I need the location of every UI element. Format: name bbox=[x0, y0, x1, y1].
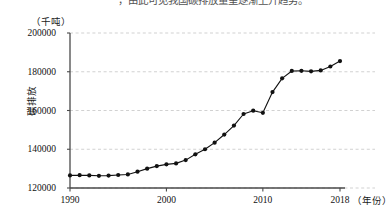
data-point-marker bbox=[299, 69, 303, 73]
data-point-marker bbox=[203, 147, 207, 151]
data-point-marker bbox=[213, 141, 217, 145]
data-point-marker bbox=[106, 174, 110, 178]
y-tick-label: 120000 bbox=[8, 183, 56, 193]
y-tick-label: 160000 bbox=[8, 106, 56, 116]
data-point-marker bbox=[328, 64, 332, 68]
x-tick-label: 2018 bbox=[320, 195, 360, 206]
y-tick-label-wrap: 200000 bbox=[8, 28, 56, 38]
data-point-marker bbox=[164, 162, 168, 166]
data-point-marker bbox=[155, 164, 159, 168]
data-point-marker bbox=[241, 112, 245, 116]
data-point-marker bbox=[174, 161, 178, 165]
y-tick-label-wrap: 180000 bbox=[8, 67, 56, 77]
data-point-marker bbox=[126, 172, 130, 176]
x-tick-label: 2000 bbox=[146, 195, 186, 206]
y-tick-label: 140000 bbox=[8, 144, 56, 154]
x-tick-label: 1990 bbox=[50, 195, 90, 206]
data-point-marker bbox=[232, 124, 236, 128]
data-line-path bbox=[70, 61, 340, 176]
data-point-marker bbox=[184, 158, 188, 162]
data-point-marker bbox=[87, 173, 91, 177]
y-tick-label-wrap: 120000 bbox=[8, 183, 56, 193]
data-point-marker bbox=[78, 173, 82, 177]
data-point-marker bbox=[222, 132, 226, 136]
y-tick-label-wrap: 140000 bbox=[8, 144, 56, 154]
data-point-marker bbox=[116, 173, 120, 177]
data-point-marker bbox=[251, 109, 255, 113]
x-tick-label: 2010 bbox=[243, 195, 283, 206]
line-chart-plot bbox=[0, 0, 392, 221]
data-point-marker bbox=[193, 152, 197, 156]
data-point-marker bbox=[145, 167, 149, 171]
data-point-markers-group bbox=[68, 59, 342, 178]
y-tick-label: 180000 bbox=[8, 67, 56, 77]
data-point-marker bbox=[135, 170, 139, 174]
data-point-marker bbox=[309, 69, 313, 73]
data-point-marker bbox=[97, 174, 101, 178]
data-point-marker bbox=[68, 173, 72, 177]
data-point-marker bbox=[290, 69, 294, 73]
y-tick-label-wrap: 160000 bbox=[8, 106, 56, 116]
tick-marks-group bbox=[67, 33, 340, 192]
data-point-marker bbox=[338, 59, 342, 63]
data-point-marker bbox=[270, 90, 274, 94]
data-point-marker bbox=[280, 76, 284, 80]
data-point-marker bbox=[319, 68, 323, 72]
data-point-marker bbox=[261, 111, 265, 115]
carbon-emission-chart-figure: ，由此可见我国碳排放量呈逐渐上升趋势。 （千吨） 碳排放 （年份） 120000… bbox=[0, 0, 392, 221]
y-tick-label: 200000 bbox=[8, 28, 56, 38]
gridlines-group bbox=[70, 33, 375, 188]
